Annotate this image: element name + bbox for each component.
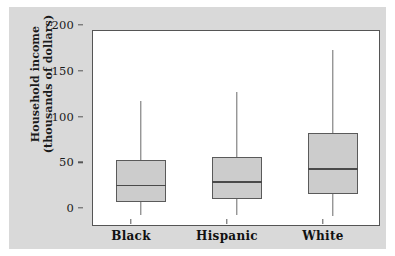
x-axis-tick-mark (226, 219, 227, 224)
x-axis-tick-mark (322, 219, 323, 224)
y-axis-tick-mark (78, 207, 83, 208)
y-axis-title-line-2: (thousands of dollars) (42, 15, 55, 153)
plot-area (92, 30, 380, 226)
y-axis-tick-label: 50 (40, 155, 74, 169)
y-axis-tick-label: 150 (40, 64, 74, 78)
y-axis-tick-mark (78, 70, 83, 71)
y-axis-tick-label: 100 (40, 110, 74, 124)
whisker-lower (332, 194, 333, 216)
y-axis-tick-label: 200 (40, 18, 74, 32)
boxplot-series (93, 31, 379, 225)
x-axis-tick-label: Black (111, 229, 151, 243)
boxplot-white (93, 31, 379, 225)
x-axis-tick-mark (130, 219, 131, 224)
figure-root: Household income (thousands of dollars) … (0, 0, 395, 256)
y-axis-title-line-1: Household income (29, 26, 42, 142)
y-axis-tick-mark (78, 116, 83, 117)
y-axis-tick-label: 0 (40, 201, 74, 215)
figure-panel: Household income (thousands of dollars) … (9, 7, 386, 249)
x-axis-tick-label: White (302, 229, 343, 243)
x-axis-tick-label: Hispanic (196, 229, 258, 243)
box-iqr (308, 133, 358, 194)
y-axis-tick-mark (78, 162, 83, 163)
y-axis-tick-mark (78, 24, 83, 25)
median-line (308, 168, 358, 170)
whisker-upper (332, 50, 333, 132)
